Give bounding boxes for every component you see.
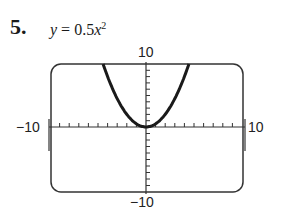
graph-plot: [0, 0, 283, 212]
